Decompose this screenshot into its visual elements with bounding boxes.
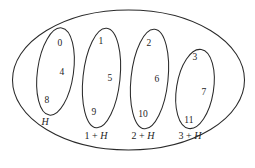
plus-sign: +: [90, 130, 101, 141]
coset-label-2h: 2 + H: [132, 131, 155, 141]
coset-label-3h-subgroup: H: [194, 130, 201, 141]
element-3: 3: [193, 53, 198, 63]
element-2: 2: [147, 39, 152, 49]
coset-label-2h-subgroup: H: [147, 130, 154, 141]
element-11: 11: [184, 116, 193, 126]
element-7: 7: [202, 88, 207, 98]
coset-label-h-text: H: [41, 116, 48, 127]
plus-sign: +: [184, 130, 195, 141]
element-10: 10: [138, 110, 148, 120]
plus-sign: +: [137, 130, 148, 141]
coset-ellipse-h: [32, 25, 80, 117]
outer-group-ellipse: [13, 10, 245, 150]
coset-partition-figure: 0 4 8 1 5 9 2 6 10 3 7 11 H 1 + H 2 + H …: [0, 0, 255, 168]
element-6: 6: [155, 75, 160, 85]
element-1: 1: [99, 37, 104, 47]
element-9: 9: [92, 108, 97, 118]
element-8: 8: [45, 96, 50, 106]
element-5: 5: [108, 74, 113, 84]
element-4: 4: [60, 68, 65, 78]
element-0: 0: [58, 39, 63, 49]
coset-label-h: H: [41, 117, 48, 127]
coset-label-3h: 3 + H: [179, 131, 202, 141]
coset-label-1h-subgroup: H: [100, 130, 107, 141]
coset-label-1h: 1 + H: [85, 131, 108, 141]
